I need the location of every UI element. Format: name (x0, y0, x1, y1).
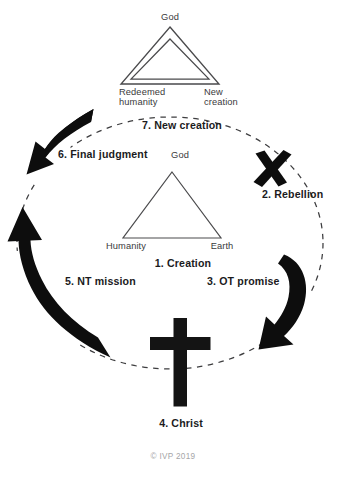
copyright-notice: © IVP 2019 (151, 452, 196, 461)
diagram-canvas: God Redeemed humanity New creation 7. Ne… (0, 0, 340, 481)
center-triangle-right-label: Earth (211, 241, 234, 251)
stage-label-christ: 4. Christ (159, 418, 203, 430)
stage-label-rebellion: 2. Rebellion (262, 189, 323, 201)
stage-label-nt-mission: 5. NT mission (65, 276, 136, 288)
cross-icon (150, 318, 211, 407)
top-triangle-new-creation (121, 27, 219, 84)
center-triangle-creation (123, 172, 221, 238)
center-triangle-apex-label: God (171, 150, 189, 160)
top-triangle-right-label: New creation (204, 87, 238, 108)
center-triangle-left-label: Humanity (106, 241, 146, 251)
top-triangle-apex-label: God (161, 12, 179, 22)
top-triangle-left-label: Redeemed humanity (119, 87, 165, 108)
biblical-cycle-diagram (0, 0, 340, 481)
stage-label-final-judgment: 6. Final judgment (58, 149, 148, 161)
stage-label-new-creation: 7. New creation (142, 120, 222, 132)
stage-label-creation: 1. Creation (155, 258, 211, 270)
stage-label-ot-promise: 3. OT promise (207, 276, 280, 288)
x-mark-icon (254, 150, 292, 187)
